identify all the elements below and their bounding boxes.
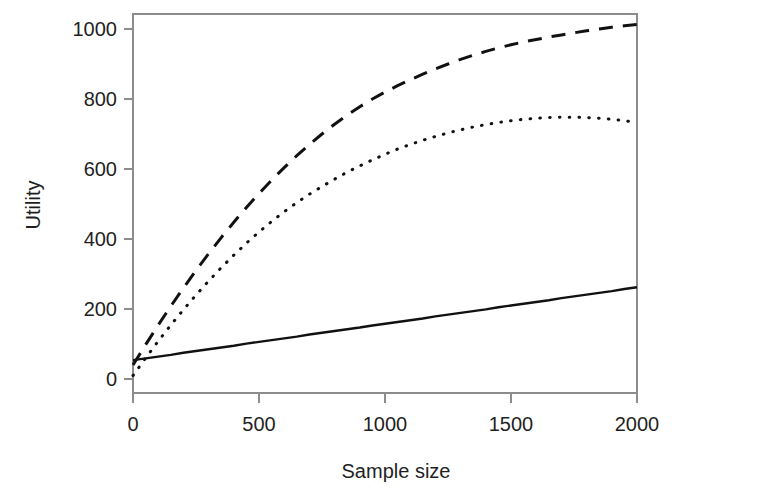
x-tick-label: 1000 — [363, 413, 408, 435]
x-tick-label: 500 — [242, 413, 275, 435]
x-tick-label: 1500 — [489, 413, 534, 435]
y-tick-label: 0 — [106, 368, 117, 390]
x-tick-label: 0 — [127, 413, 138, 435]
y-tick-label: 800 — [84, 88, 117, 110]
x-axis-title: Sample size — [342, 460, 451, 482]
y-tick-label: 600 — [84, 158, 117, 180]
chart-container: 02004006008001000 0500100015002000 Sampl… — [0, 0, 764, 501]
y-axis-title: Utility — [22, 181, 44, 230]
y-tick-label: 1000 — [73, 18, 118, 40]
y-tick-label: 400 — [84, 228, 117, 250]
x-tick-label: 2000 — [615, 413, 660, 435]
y-tick-label: 200 — [84, 298, 117, 320]
utility-vs-sample-size-line-chart: 02004006008001000 0500100015002000 Sampl… — [0, 0, 764, 501]
